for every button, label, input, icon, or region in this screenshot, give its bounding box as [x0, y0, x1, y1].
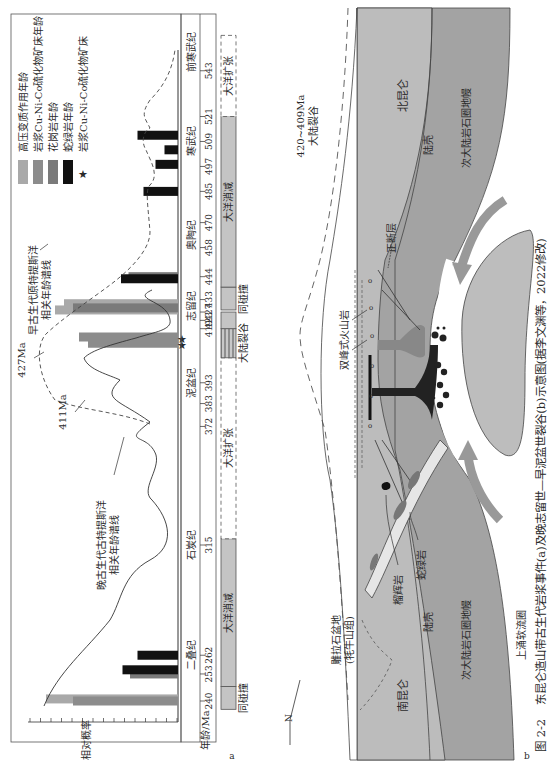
north-label: N — [284, 714, 294, 722]
tectonic-stage-label: 大洋扩张 — [222, 56, 234, 96]
age-tick-label: 393 — [204, 374, 214, 391]
panel-a-label: a — [229, 751, 235, 761]
age-tick-label: 497 — [204, 158, 214, 175]
star-icon: ★ — [177, 333, 187, 346]
svg-text:o: o — [370, 332, 374, 340]
tectonic-stage — [221, 686, 236, 709]
panel-a: 相对概率 高压变质作用年龄岩浆Cu-Ni-Co硫化物矿床年龄花岗岩年龄蛇绿岩年龄… — [11, 14, 249, 761]
flow-arrow-head-upper — [452, 262, 472, 285]
flow-arrow-head-lower — [458, 440, 478, 460]
legend-swatch — [33, 160, 43, 184]
legend-swatch — [18, 160, 28, 184]
figure-number: 图 2-2 — [534, 719, 548, 752]
svg-text:o: o — [369, 304, 373, 312]
age-bar — [144, 187, 179, 196]
label-crust-north: 陆壳 — [422, 135, 434, 155]
label-mantle-north: 次大陆岩石圈地幔 — [460, 88, 472, 168]
label-time-range: 420~409Ma — [295, 95, 306, 158]
svg-text:o: o — [368, 422, 372, 430]
svg-text:o: o — [368, 277, 372, 285]
period-label: 寒武纪 — [185, 126, 197, 156]
figure-canvas: 相对概率 高压变质作用年龄岩浆Cu-Ni-Co硫化物矿床年龄花岗岩年龄蛇绿岩年龄… — [0, 0, 551, 763]
tectonic-stage-label: 同碰撞 — [237, 683, 249, 713]
age-bar — [165, 145, 179, 154]
north-arrow: N — [284, 680, 300, 745]
age-tick-label: 433 — [204, 291, 214, 308]
peak-411-label: 411Ma — [57, 394, 68, 429]
tectonic-stage-label: 大洋消减 — [222, 593, 234, 633]
label-north-kunlun: 北昆仑 — [396, 79, 410, 112]
panel-b: oooooo 北昆仑 南昆仑 陆壳 陆壳 次大陆岩石圈地幔 次大陆岩石圈地幔 正… — [284, 8, 533, 761]
deposit-stars: ★★ — [177, 333, 187, 352]
age-tick-label: 253 — [204, 665, 214, 682]
age-tick-label: 240 — [204, 692, 214, 709]
period-label: 志留纪 — [185, 291, 197, 321]
x-axis-label: 年龄/Ma — [199, 710, 211, 750]
period-label: 二叠纪 — [186, 640, 197, 670]
age-bar — [121, 274, 178, 283]
tectonic-stage-label: 大洋消减 — [222, 182, 234, 222]
label-continental-rift: 大陆裂谷 — [307, 106, 319, 146]
age-bar — [156, 160, 179, 169]
star-icon: ★ — [78, 168, 88, 181]
tectonic-stage-label: 同碰撞 — [237, 284, 249, 314]
svg-text:o: o — [369, 392, 373, 400]
label-ophiolite: 蛇绿岩 — [415, 550, 427, 580]
period-label: 奥陶纪 — [185, 220, 197, 250]
tectonic-stage-label: 大陆裂谷 — [237, 323, 249, 363]
asthenosphere-lens — [462, 230, 534, 456]
age-tick-label: 444 — [204, 268, 214, 285]
label-bimodal-volcanics: 双峰式火山岩 — [338, 310, 350, 370]
label-crust-south: 陆壳 — [422, 612, 434, 632]
age-tick-label: 458 — [204, 239, 214, 256]
legend-swatch — [63, 160, 73, 184]
age-bar — [138, 651, 179, 660]
early-curve-label-2: 相关年龄谱线 — [40, 260, 52, 320]
age-tick-label: 509 — [204, 133, 214, 150]
legend-label: 岩浆Cu-Ni-Co硫化物矿床 — [77, 36, 89, 152]
legend-label: 花岗岩年龄 — [47, 102, 59, 152]
age-bar — [73, 697, 178, 706]
age-ticks: 2402532623153723833934194234274334444584… — [200, 62, 214, 710]
period-label: 前寒武纪 — [185, 32, 197, 72]
age-tick-label: 485 — [204, 183, 214, 200]
tectonic-stage-label: 大洋扩张 — [222, 428, 234, 468]
age-tick-label: 470 — [204, 214, 214, 231]
label-upwelling: 上涌软流圈 — [515, 610, 527, 660]
tectonic-stage — [221, 287, 236, 310]
early-curve-label-1: 早古生代原特提斯洋 — [27, 245, 39, 335]
label-basin-formation: (牦牛山组) — [343, 616, 355, 664]
age-tick-label: 315 — [204, 536, 214, 553]
age-tick-label: 383 — [204, 395, 214, 412]
label-normal-fault: 正断层 — [385, 223, 397, 253]
panel-b-label: b — [524, 751, 530, 761]
legend-swatch — [48, 160, 58, 184]
period-label: 石炭纪 — [186, 530, 197, 560]
label-south-kunlun: 南昆仑 — [396, 679, 410, 712]
period-label: 泥盆纪 — [185, 368, 197, 398]
tectonic-stages: 同碰撞大洋消减大洋扩张大陆裂谷同碰撞大洋消减大洋扩张 — [221, 35, 249, 712]
figure-page: 相对概率 高压变质作用年龄岩浆Cu-Ni-Co硫化物矿床年龄花岗岩年龄蛇绿岩年龄… — [0, 0, 551, 763]
label-basin: 雕拉石盆地 — [330, 615, 342, 665]
age-tick-label: 262 — [204, 647, 214, 664]
label-mantle-south: 次大陆岩石圈地幔 — [460, 600, 472, 680]
svg-text:o: o — [370, 362, 374, 370]
age-tick-label: 543 — [204, 62, 214, 79]
age-tick-label: 372 — [204, 418, 214, 435]
y-axis-label: 相对概率 — [80, 720, 92, 760]
legend-label: 岩浆Cu-Ni-Co硫化物矿床年龄 — [32, 16, 44, 152]
late-curve-label-1: 晚古生代古特提斯洋 — [95, 500, 107, 590]
legend-label: 蛇绿岩年龄 — [62, 102, 74, 152]
tectonic-stage — [221, 329, 236, 358]
figure-caption-text: 东昆仑造山带古生代岩浆事件(a)及晚志留世—早泥盆世裂谷(b)示意图(据李文渊等… — [534, 238, 548, 705]
age-tick-label: 521 — [204, 108, 214, 125]
peak-427-label: 427Ma — [16, 342, 27, 377]
label-eclogite: 榴辉岩 — [392, 575, 404, 605]
late-curve-label-2: 相关年龄谱线 — [108, 515, 120, 575]
age-bar — [123, 665, 179, 674]
figure-caption: 图 2-2 东昆仑造山带古生代岩浆事件(a)及晚志留世—早泥盆世裂谷(b)示意图… — [534, 238, 548, 752]
legend-label: 高压变质作用年龄 — [17, 72, 29, 152]
tectonic-stage — [221, 312, 236, 329]
